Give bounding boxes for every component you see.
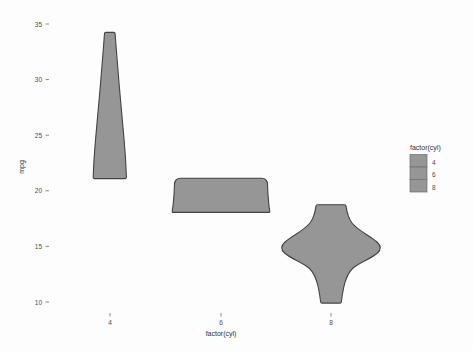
- y-tick-label: 15: [35, 243, 43, 250]
- plot-canvas: 35 30 25 20 15 10: [0, 0, 473, 351]
- legend-label-8: 8: [432, 184, 436, 191]
- y-tick-label: 35: [35, 21, 43, 28]
- legend-label-6: 6: [432, 171, 436, 178]
- violin-plot-figure: 35 30 25 20 15 10: [0, 0, 473, 351]
- y-tick-label: 30: [35, 76, 43, 83]
- y-tick-label: 20: [35, 187, 43, 194]
- legend-swatch-8[interactable]: [410, 180, 427, 193]
- legend-title: factor(cyl): [410, 144, 441, 152]
- legend-label-4: 4: [432, 159, 436, 166]
- y-tick-label: 10: [35, 299, 43, 306]
- y-axis-title: mpg: [18, 160, 26, 174]
- legend-swatch-4[interactable]: [410, 155, 427, 168]
- x-tick-label: 8: [329, 319, 333, 326]
- x-tick-label: 4: [108, 319, 112, 326]
- legend-swatch-6[interactable]: [410, 167, 427, 180]
- y-tick-label: 25: [35, 132, 43, 139]
- violin-cyl-6: [172, 178, 270, 212]
- x-tick-label: 6: [219, 319, 223, 326]
- x-axis-title: factor(cyl): [206, 330, 237, 338]
- plot-background: [0, 0, 473, 351]
